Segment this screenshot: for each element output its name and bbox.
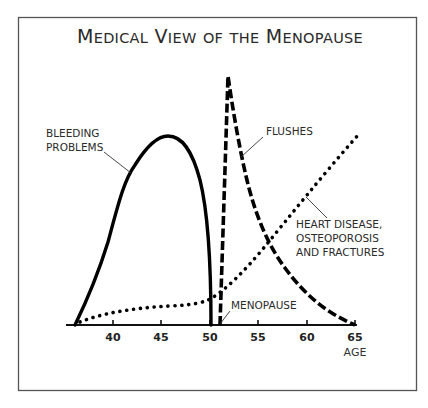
label-bleeding-problems: BLEEDING PROBLEMS bbox=[46, 127, 131, 173]
svg-text:FLUSHES: FLUSHES bbox=[266, 125, 313, 137]
svg-text:OSTEOPOROSIS: OSTEOPOROSIS bbox=[296, 232, 379, 244]
x-tick-labels: 40 45 50 55 60 65 bbox=[105, 331, 362, 344]
series-bleeding-problems bbox=[75, 136, 211, 325]
svg-text:BLEEDING: BLEEDING bbox=[46, 127, 100, 139]
x-tick-label: 65 bbox=[347, 331, 362, 344]
svg-text:HEART DISEASE,: HEART DISEASE, bbox=[296, 218, 382, 230]
series-flushes bbox=[220, 76, 355, 325]
label-heart-disease: HEART DISEASE, OSTEOPOROSIS AND FRACTURE… bbox=[296, 197, 385, 258]
label-flushes: FLUSHES bbox=[241, 125, 313, 157]
x-tick-label: 40 bbox=[105, 331, 121, 344]
x-axis-label: AGE bbox=[344, 346, 367, 359]
chart-title: MEDICAL VIEW OF THE MENOPAUSE bbox=[77, 25, 363, 47]
x-tick-label: 60 bbox=[299, 331, 315, 344]
x-tick-label: 45 bbox=[153, 331, 168, 344]
x-tick-label: 55 bbox=[250, 331, 265, 344]
chart: MEDICAL VIEW OF THE MENOPAUSE 40 45 50 5… bbox=[0, 0, 428, 408]
svg-text:PROBLEMS: PROBLEMS bbox=[46, 141, 104, 153]
x-tick-label: 50 bbox=[202, 331, 218, 344]
svg-text:MENOPAUSE: MENOPAUSE bbox=[231, 299, 297, 311]
svg-text:AND FRACTURES: AND FRACTURES bbox=[296, 246, 385, 258]
